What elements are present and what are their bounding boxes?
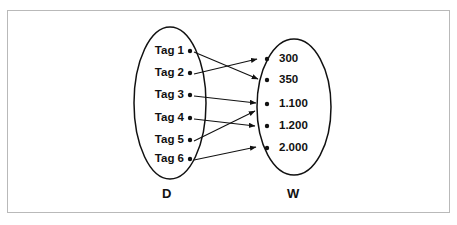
set-label-codomain: W: [287, 186, 300, 201]
codomain-dots: [265, 57, 269, 150]
mapping-arrow-tag-4-to-w-1200: [194, 119, 255, 126]
mapping-arrow-tag-3-to-w-1100: [194, 96, 256, 103]
bullet-w-350: [265, 78, 269, 82]
label-tag-6: Tag 6: [142, 152, 184, 164]
mapping-arrows: [194, 52, 258, 160]
mapping-arrow-tag-6-to-w-2000: [194, 147, 256, 160]
mapping-arrow-tag-5-to-w-1100: [194, 111, 255, 141]
label-w-2000: 2.000: [279, 141, 308, 153]
label-w-1100: 1.100: [279, 97, 308, 109]
domain-dots: [188, 49, 192, 161]
bullet-w-2000: [265, 146, 269, 150]
bullet-w-1200: [265, 124, 269, 128]
bullet-tag-2: [188, 71, 192, 75]
bullet-tag-5: [188, 138, 192, 142]
label-tag-4: Tag 4: [142, 111, 184, 123]
bullet-w-300: [265, 57, 269, 61]
label-tag-3: Tag 3: [142, 88, 184, 100]
bullet-w-1100: [265, 102, 269, 106]
label-tag-1: Tag 1: [142, 44, 184, 56]
label-w-1200: 1.200: [279, 119, 308, 131]
label-tag-2: Tag 2: [142, 66, 184, 78]
set-label-domain: D: [162, 186, 172, 201]
bullet-tag-3: [188, 93, 192, 97]
bullet-tag-4: [188, 116, 192, 120]
label-tag-5: Tag 5: [142, 133, 184, 145]
bullet-tag-6: [188, 157, 192, 161]
label-w-300: 300: [279, 52, 298, 64]
label-w-350: 350: [279, 73, 298, 85]
mapping-diagram: [0, 0, 457, 225]
mapping-arrow-tag-2-to-w-300: [194, 59, 257, 74]
bullet-tag-1: [188, 49, 192, 53]
